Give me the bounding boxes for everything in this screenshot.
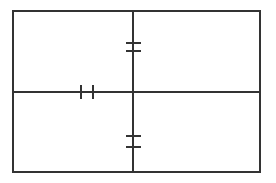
technical-drawing-canvas: [0, 0, 276, 183]
drawing-root: [0, 0, 276, 183]
